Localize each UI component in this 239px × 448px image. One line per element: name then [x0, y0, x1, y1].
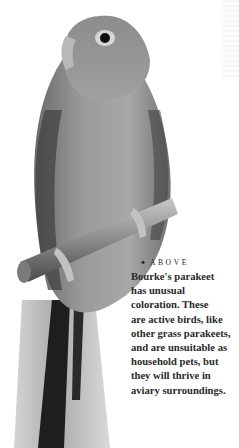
- photo-caption: ✦ ABOVE Bourke's parakeet has unusual co…: [131, 258, 239, 398]
- bullet-icon: ✦: [140, 259, 146, 267]
- caption-label: ✦ ABOVE: [140, 258, 239, 267]
- caption-text: Bourke's parakeet has unusual coloration…: [131, 270, 239, 398]
- caption-label-text: ABOVE: [150, 258, 189, 267]
